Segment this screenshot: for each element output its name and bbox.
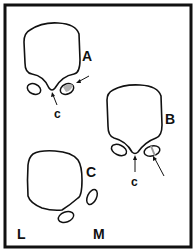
panel-b: B c — [107, 85, 175, 189]
frame-border — [5, 5, 191, 247]
arrowhead-oval-a-icon — [76, 79, 81, 83]
oval-bottom-c — [57, 210, 75, 225]
label-b: B — [165, 111, 175, 127]
arrow-oval-b — [155, 159, 164, 176]
oval-stripe-b — [151, 146, 155, 156]
oval-left-a — [26, 82, 43, 97]
arrowhead-c-a-icon — [51, 92, 55, 97]
sublabel-c-a: c — [54, 107, 61, 121]
vertebral-body-b — [107, 85, 162, 154]
arrow-c-a — [53, 95, 57, 105]
panel-c: C L M — [17, 151, 105, 242]
arrowhead-oval-b-icon — [153, 156, 157, 161]
diagram: A c B c C L M — [0, 0, 196, 251]
label-a: A — [82, 48, 92, 64]
sublabel-c-b: c — [131, 175, 138, 189]
vertebral-body-a — [24, 23, 80, 90]
panel-a: A c — [24, 23, 92, 121]
label-l: L — [17, 226, 26, 242]
arrowhead-c-b-icon — [133, 155, 137, 160]
label-c: C — [86, 164, 96, 180]
label-m: M — [93, 226, 105, 242]
oval-right-c — [85, 188, 100, 206]
vertebral-body-c — [28, 151, 83, 210]
